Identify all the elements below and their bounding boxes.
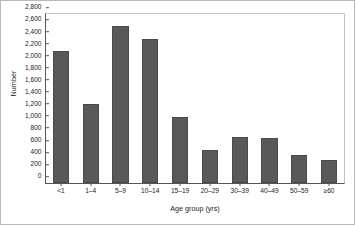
y-axis-title: Number bbox=[9, 48, 18, 120]
x-axis-tick-mark bbox=[90, 183, 91, 186]
x-axis-tick-mark bbox=[180, 183, 181, 186]
x-axis-tick-label: ≥60 bbox=[324, 188, 335, 195]
bar-slot: <1 bbox=[46, 14, 76, 183]
bar bbox=[202, 150, 218, 183]
x-axis-tick-label: 15–19 bbox=[171, 188, 189, 195]
bar-chart-figure: Number 02004006008001,0001,2001,4001,600… bbox=[0, 0, 355, 225]
bar-slot: 20–29 bbox=[195, 14, 225, 183]
bar bbox=[142, 39, 158, 183]
y-axis-tick-label: 2,200 bbox=[25, 40, 46, 47]
y-axis-tick-label: 2,400 bbox=[25, 28, 46, 35]
y-axis-tick-label: 400 bbox=[30, 149, 46, 156]
bar bbox=[83, 104, 99, 183]
x-axis-tick-mark bbox=[120, 183, 121, 186]
y-axis-tick-label: 0 bbox=[38, 173, 46, 180]
bar-slot: 50–59 bbox=[284, 14, 314, 183]
bar bbox=[53, 51, 69, 183]
y-axis-tick-label: 1,200 bbox=[25, 101, 46, 108]
x-axis-tick-label: 1–4 bbox=[85, 188, 96, 195]
bar bbox=[321, 160, 337, 183]
y-axis-tick-label: 1,600 bbox=[25, 77, 46, 84]
x-axis-tick-label: 50–59 bbox=[290, 188, 308, 195]
x-axis-tick-label: 30–39 bbox=[231, 188, 249, 195]
x-axis-tick-mark bbox=[209, 183, 210, 186]
bar bbox=[291, 155, 307, 183]
plot-area: 02004006008001,0001,2001,4001,6001,8002,… bbox=[45, 13, 345, 184]
y-axis-tick-label: 1,400 bbox=[25, 89, 46, 96]
y-axis-tick-label: 1,000 bbox=[25, 113, 46, 120]
y-axis-tick-label: 2,600 bbox=[25, 16, 46, 23]
x-axis-title: Age group (yrs) bbox=[45, 204, 345, 213]
y-axis-tick-label: 200 bbox=[30, 161, 46, 168]
bar-slot: 40–49 bbox=[255, 14, 285, 183]
x-axis-tick-mark bbox=[150, 183, 151, 186]
bar-slot: 5–9 bbox=[106, 14, 136, 183]
bar-slot: 15–19 bbox=[165, 14, 195, 183]
x-axis-tick-mark bbox=[239, 183, 240, 186]
y-axis-tick-label: 800 bbox=[30, 125, 46, 132]
y-axis-tick-label: 600 bbox=[30, 137, 46, 144]
x-axis-tick-mark bbox=[299, 183, 300, 186]
bar bbox=[232, 137, 248, 183]
x-axis-tick-mark bbox=[329, 183, 330, 186]
x-axis-tick-mark bbox=[60, 183, 61, 186]
bar bbox=[172, 117, 188, 183]
x-axis-tick-label: 20–29 bbox=[201, 188, 219, 195]
bar bbox=[261, 138, 277, 183]
y-axis-tick-label: 2,800 bbox=[25, 4, 46, 11]
bar bbox=[112, 26, 128, 183]
x-axis-tick-mark bbox=[269, 183, 270, 186]
bar-slot: 10–14 bbox=[135, 14, 165, 183]
x-axis-tick-label: 40–49 bbox=[260, 188, 278, 195]
y-axis-tick-label: 2,000 bbox=[25, 52, 46, 59]
x-axis-tick-label: 5–9 bbox=[115, 188, 126, 195]
x-axis-tick-label: <1 bbox=[57, 188, 65, 195]
bar-series: <11–45–910–1415–1920–2930–3940–4950–59≥6… bbox=[46, 14, 344, 183]
bar-slot: ≥60 bbox=[314, 14, 344, 183]
bar-slot: 30–39 bbox=[225, 14, 255, 183]
y-axis-tick-label: 1,800 bbox=[25, 64, 46, 71]
bar-slot: 1–4 bbox=[76, 14, 106, 183]
x-axis-tick-label: 10–14 bbox=[141, 188, 159, 195]
